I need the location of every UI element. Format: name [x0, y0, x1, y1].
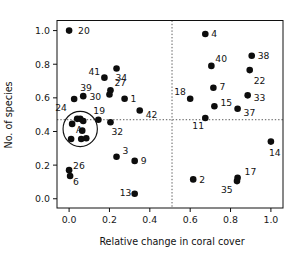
data-point	[106, 91, 113, 98]
data-point	[190, 176, 197, 183]
data-point-label: 20	[78, 25, 90, 36]
data-point-label: 1	[131, 93, 137, 104]
data-point-label: 27	[114, 77, 126, 88]
x-tick-label: 0.0	[62, 214, 77, 225]
data-point-label: 24	[55, 102, 67, 113]
data-point	[202, 31, 209, 38]
data-point	[244, 92, 251, 99]
data-point	[68, 136, 75, 143]
data-point	[211, 103, 218, 110]
data-point	[95, 116, 102, 123]
data-point-label: 19	[93, 105, 105, 116]
data-point	[80, 93, 87, 100]
data-point-label: 15	[220, 97, 232, 108]
y-tick-label: 0.4	[35, 126, 50, 137]
plot-canvas: 0.00.20.40.60.81.00.00.20.40.60.81.0 A 2…	[0, 0, 307, 255]
data-point	[71, 96, 78, 103]
y-tick-label: 0.0	[35, 193, 50, 204]
data-point-label: 17	[245, 166, 257, 177]
data-point-label: 6	[73, 176, 79, 187]
data-point	[69, 121, 76, 128]
data-point	[113, 153, 120, 160]
data-point-label: 18	[174, 86, 186, 97]
data-point-label: 40	[215, 53, 227, 64]
data-point	[131, 158, 138, 165]
data-point-label: 13	[120, 187, 132, 198]
data-point	[187, 95, 194, 102]
x-tick-label: 1.0	[263, 214, 278, 225]
x-tick-label: 0.6	[183, 214, 198, 225]
data-point-label: 41	[88, 66, 100, 77]
data-point-label: 4	[211, 28, 217, 39]
point-labels-group: 2043840342241727303339118153742112419321…	[55, 25, 281, 198]
data-point-label: 22	[254, 75, 266, 86]
data-point	[234, 105, 241, 112]
y-tick-label: 1.0	[35, 25, 50, 36]
data-point-label: 37	[244, 107, 256, 118]
y-tick-label: 0.6	[35, 92, 50, 103]
data-point	[268, 138, 275, 145]
data-point-label: 32	[111, 126, 123, 137]
data-point	[210, 84, 217, 91]
x-tick-label: 0.4	[142, 214, 157, 225]
x-axis-title: Relative change in coral cover	[99, 236, 244, 247]
data-point	[121, 95, 128, 102]
data-point	[107, 119, 114, 126]
data-point-label: 9	[141, 155, 147, 166]
data-point-label: 11	[192, 120, 204, 131]
data-point	[246, 67, 253, 74]
y-tick-label: 0.8	[35, 59, 50, 70]
data-point	[66, 27, 73, 34]
data-point	[113, 65, 120, 72]
y-axis-title: No. of species	[3, 81, 14, 148]
data-point	[83, 135, 90, 142]
data-point-label: 42	[146, 109, 158, 120]
data-point-label: 7	[219, 81, 225, 92]
data-point-label: 33	[254, 92, 266, 103]
x-tick-label: 0.8	[223, 214, 238, 225]
data-point	[79, 127, 86, 134]
data-point	[66, 167, 73, 174]
data-point-label: 26	[73, 160, 85, 171]
data-point	[131, 190, 138, 197]
x-tick-label: 0.2	[102, 214, 117, 225]
data-point-label: 2	[199, 174, 205, 185]
data-point	[136, 107, 143, 114]
data-point	[101, 74, 108, 81]
data-point-label: 35	[221, 184, 233, 195]
scatter-plot-figure: 0.00.20.40.60.81.00.00.20.40.60.81.0 A 2…	[0, 0, 307, 255]
y-tick-label: 0.2	[35, 160, 50, 171]
data-point	[234, 178, 241, 185]
data-point	[248, 53, 255, 60]
data-point	[80, 118, 87, 125]
data-point-label: 39	[80, 82, 92, 93]
data-point-label: 38	[258, 50, 270, 61]
data-point-label: 14	[269, 147, 281, 158]
data-point	[208, 63, 215, 70]
data-point-label: 3	[123, 145, 129, 156]
